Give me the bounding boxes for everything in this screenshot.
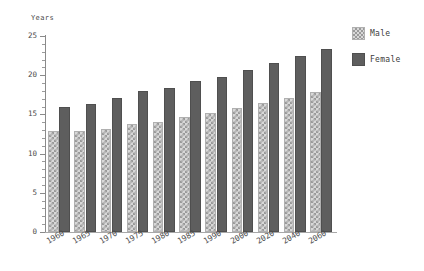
y-tick-label: 10: [17, 150, 37, 158]
bar-male-1970[interactable]: [101, 129, 112, 232]
bar-female-2020[interactable]: [269, 63, 280, 232]
bar-female-2040[interactable]: [295, 56, 306, 232]
bar-female-2000[interactable]: [243, 70, 254, 232]
bar-female-1990[interactable]: [217, 77, 228, 232]
bar-group: [284, 36, 306, 232]
bar-group: [258, 36, 280, 232]
bar-female-1975[interactable]: [138, 91, 149, 232]
bar-male-2060[interactable]: [310, 92, 321, 232]
chart-legend: Male Female: [352, 27, 422, 79]
bar-group: [205, 36, 227, 232]
bar-male-1975[interactable]: [127, 124, 138, 232]
y-axis-label: Years: [31, 14, 54, 22]
bar-male-1990[interactable]: [205, 113, 216, 232]
bar-group: [153, 36, 175, 232]
y-tick-label: 5: [17, 189, 37, 197]
legend-item-male[interactable]: Male: [352, 27, 422, 40]
bar-female-1985[interactable]: [190, 81, 201, 232]
bar-male-1985[interactable]: [179, 117, 190, 232]
bar-female-1965[interactable]: [86, 104, 97, 232]
y-tick-major: [40, 232, 45, 233]
bar-female-1960[interactable]: [59, 107, 70, 232]
bar-group: [232, 36, 254, 232]
y-tick-label: 0: [17, 228, 37, 236]
bar-female-2060[interactable]: [321, 49, 332, 232]
bar-female-1980[interactable]: [164, 88, 175, 232]
legend-label-male: Male: [370, 29, 390, 38]
bar-male-1965[interactable]: [74, 131, 85, 232]
bar-male-2020[interactable]: [258, 103, 269, 232]
bar-male-1960[interactable]: [48, 131, 59, 232]
legend-swatch-male-icon: [352, 27, 365, 40]
bar-male-2000[interactable]: [232, 108, 243, 232]
y-tick-label: 15: [17, 110, 37, 118]
legend-label-female: Female: [370, 55, 401, 64]
bar-group: [101, 36, 123, 232]
bar-chart: Years 0510152025 19601965197019751980198…: [0, 0, 424, 271]
bar-group: [74, 36, 96, 232]
legend-item-female[interactable]: Female: [352, 53, 422, 66]
bar-group: [48, 36, 70, 232]
bar-male-1980[interactable]: [153, 122, 164, 232]
plot-area: [45, 36, 333, 232]
y-tick-label: 25: [17, 32, 37, 40]
bar-group: [127, 36, 149, 232]
bar-male-2040[interactable]: [284, 98, 295, 232]
bar-group: [310, 36, 332, 232]
bar-group: [179, 36, 201, 232]
legend-swatch-female-icon: [352, 53, 365, 66]
y-tick-label: 20: [17, 71, 37, 79]
bar-female-1970[interactable]: [112, 98, 123, 232]
